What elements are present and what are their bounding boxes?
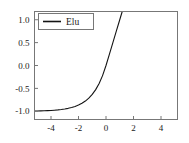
x-tick-label: -4	[47, 123, 55, 133]
y-tick-label: 0.0	[18, 61, 30, 71]
y-tick-label: -1.0	[15, 106, 30, 116]
legend-label-elu: Elu	[66, 17, 79, 27]
y-tick-label: -0.5	[15, 84, 30, 94]
x-tick-label: -2	[75, 123, 83, 133]
x-tick-label: 4	[159, 123, 164, 133]
figure-container: -4-2024 1.00.50.0-0.5-1.0 Elu	[0, 0, 189, 143]
x-tick-label: 2	[131, 123, 136, 133]
x-tick-label: 0	[104, 123, 109, 133]
y-tick-label: 0.5	[18, 38, 30, 48]
elu-line-chart: -4-2024 1.00.50.0-0.5-1.0 Elu	[0, 0, 189, 143]
y-tick-label: 1.0	[18, 15, 30, 25]
legend: Elu	[39, 14, 94, 30]
